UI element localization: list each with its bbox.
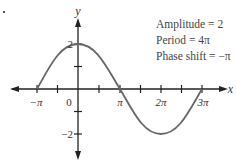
phase-shift-note: Phase shift = −π [156,48,231,64]
annotation-box: Amplitude = 2 Period = 4π Phase shift = … [156,16,231,64]
tick-label-zero: 0 [66,96,72,108]
tick-label-3pi: 3π [196,96,209,108]
period-note: Period = 4π [156,32,231,48]
y-axis-up-arrow-icon [75,18,81,27]
tick-label-pi: π [117,96,123,108]
y-axis-down-arrow-icon [75,151,81,160]
x-axis-right-arrow-icon [219,86,228,92]
tick-label-neg-pi: −π [30,96,43,108]
x-axis-left-arrow-icon [10,86,19,92]
x-axis-label: x [227,82,234,96]
tick-label-y-2: 2 [68,38,74,50]
tick-label-y-neg-2: −2 [61,128,73,140]
tick-label-2pi: 2π [155,96,167,108]
y-axis-label: y [74,4,81,18]
amplitude-note: Amplitude = 2 [156,16,231,32]
